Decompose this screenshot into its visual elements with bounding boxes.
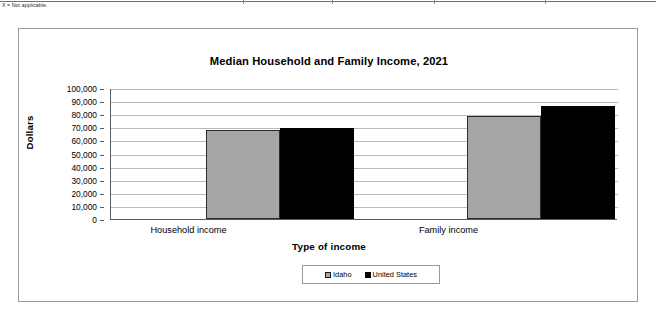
y-axis-tick xyxy=(100,194,104,195)
y-axis-tick-label: 60,000 xyxy=(27,137,97,145)
legend-item-united-states: United States xyxy=(365,270,417,279)
legend-label-idaho: Idaho xyxy=(333,270,352,279)
chart-legend: Idaho United States xyxy=(302,265,440,284)
legend-label-united-states: United States xyxy=(373,270,417,279)
y-axis-tick-label: 10,000 xyxy=(27,203,97,211)
footnote-text: X = Not applicable. xyxy=(2,2,48,9)
table-rule xyxy=(0,1,656,2)
x-axis-category-label: Family income xyxy=(351,225,546,235)
y-axis-tick xyxy=(100,220,104,221)
plot-area xyxy=(110,89,617,220)
table-column-divider xyxy=(243,0,244,4)
y-axis-tick-label: 40,000 xyxy=(27,164,97,172)
chart-container: Median Household and Family Income, 2021… xyxy=(18,28,638,302)
table-fragment xyxy=(0,0,656,9)
y-axis-tick xyxy=(100,141,104,142)
y-axis-tick-label: 20,000 xyxy=(27,190,97,198)
x-axis-title: Type of income xyxy=(19,241,639,252)
y-axis-tick-labels: 100,00090,00080,00070,00060,00050,00040,… xyxy=(19,83,107,223)
y-axis-tick xyxy=(100,128,104,129)
y-axis-tick-label: 50,000 xyxy=(27,151,97,159)
grid-line xyxy=(111,102,618,103)
y-axis-tick-label: 80,000 xyxy=(27,111,97,119)
y-axis-tick-label: 100,000 xyxy=(27,85,97,93)
y-axis-tick xyxy=(100,207,104,208)
legend-swatch-united-states xyxy=(365,272,371,278)
y-axis-tick xyxy=(100,155,104,156)
y-axis-tick xyxy=(100,89,104,90)
y-axis-tick xyxy=(100,102,104,103)
y-axis-tick-label: 70,000 xyxy=(27,124,97,132)
table-column-divider xyxy=(545,0,546,4)
y-axis-tick-label: 0 xyxy=(27,216,97,224)
bar-family-income-united-states xyxy=(541,106,615,219)
grid-line xyxy=(111,89,618,90)
bar-family-income-idaho xyxy=(467,116,541,219)
y-axis-tick xyxy=(100,115,104,116)
y-axis-tick xyxy=(100,168,104,169)
y-axis-tick-label: 30,000 xyxy=(27,177,97,185)
legend-item-idaho: Idaho xyxy=(325,270,352,279)
x-axis-category-label: Household income xyxy=(91,225,286,235)
bar-household-income-united-states xyxy=(280,128,354,219)
y-axis-tick xyxy=(100,181,104,182)
legend-swatch-idaho xyxy=(325,272,331,278)
y-axis-tick-label: 90,000 xyxy=(27,98,97,106)
table-column-divider xyxy=(332,0,333,4)
chart-title: Median Household and Family Income, 2021 xyxy=(19,55,639,67)
table-column-divider xyxy=(434,0,435,4)
bar-household-income-idaho xyxy=(206,130,280,219)
